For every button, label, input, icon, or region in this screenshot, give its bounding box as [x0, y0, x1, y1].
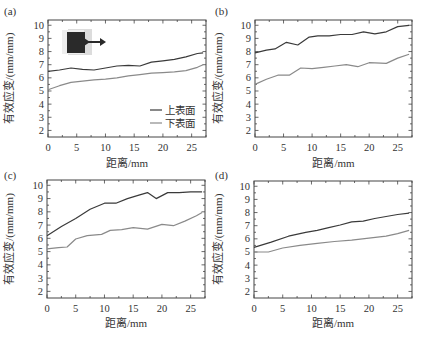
y-tick-label: 8 [38, 206, 43, 217]
x-axis-label: 距离/mm [105, 316, 148, 329]
series-lower-surface [254, 230, 409, 252]
x-tick-label: 0 [252, 142, 257, 153]
y-tick-label: 8 [246, 46, 251, 57]
y-tick-label: 4 [38, 259, 44, 270]
y-tick-label: 9 [246, 33, 251, 44]
panel-label: (a) [4, 5, 17, 18]
y-axis-label: 有效应变/(mm/mm) [2, 193, 16, 285]
y-tick-label: 9 [38, 193, 43, 204]
y-tick-label: 2 [246, 125, 251, 136]
x-tick-label: 15 [129, 142, 140, 153]
x-tick-label: 10 [307, 142, 318, 153]
y-tick-label: 10 [33, 180, 44, 191]
y-tick-label: 2 [39, 125, 44, 136]
x-tick-label: 25 [186, 142, 197, 153]
y-tick-label: 7 [245, 220, 250, 231]
panel-b: (b) 05101520252345678910距离/mm有效应变/(mm/mm… [211, 0, 423, 172]
y-tick-label: 7 [38, 220, 43, 231]
x-tick-label: 5 [280, 303, 285, 314]
y-axis-label: 有效应变/(mm/mm) [211, 32, 225, 124]
panel-a: (a) 05101520252345678910距离/mm有效应变/(mm/mm… [0, 0, 212, 172]
panel-label: (b) [215, 5, 228, 18]
x-tick-label: 20 [157, 303, 168, 314]
x-tick-label: 10 [100, 142, 111, 153]
y-tick-label: 9 [245, 194, 250, 205]
x-tick-label: 5 [74, 142, 79, 153]
x-tick-label: 5 [281, 142, 286, 153]
series-upper-surface [48, 53, 203, 71]
y-tick-label: 8 [39, 46, 44, 57]
y-tick-label: 3 [38, 273, 43, 284]
x-tick-label: 25 [185, 303, 196, 314]
legend-upper-label: 上表面 [165, 104, 195, 116]
y-tick-label: 5 [38, 246, 43, 257]
x-tick-label: 0 [44, 303, 49, 314]
axes-b: 05101520252345678910距离/mm有效应变/(mm/mm) [211, 20, 412, 169]
y-tick-label: 2 [245, 286, 250, 297]
x-axis-label: 距离/mm [312, 316, 355, 329]
x-tick-label: 0 [45, 142, 50, 153]
x-tick-label: 20 [158, 142, 169, 153]
inset-image [62, 29, 106, 55]
x-tick-label: 15 [128, 303, 139, 314]
y-tick-label: 6 [39, 72, 44, 83]
y-tick-label: 7 [39, 59, 44, 70]
y-tick-label: 5 [245, 246, 250, 257]
y-tick-label: 5 [39, 85, 44, 96]
y-tick-label: 6 [38, 233, 43, 244]
legend: 上表面 下表面 [150, 104, 195, 129]
y-tick-label: 8 [245, 207, 250, 218]
series-lower-surface [255, 54, 409, 84]
series-upper-surface [255, 25, 409, 53]
y-tick-label: 3 [246, 112, 251, 123]
y-tick-label: 6 [246, 72, 251, 83]
y-tick-label: 3 [245, 273, 250, 284]
y-tick-label: 10 [241, 20, 252, 31]
y-tick-label: 7 [246, 59, 251, 70]
y-axis-label: 有效应变/(mm/mm) [211, 193, 225, 285]
panel-label: (d) [215, 169, 228, 182]
axes-d: 05101520252345678910距离/mm有效应变/(mm/mm) [211, 181, 412, 329]
y-tick-label: 4 [246, 99, 252, 110]
panel-c: (c) 05101520252345678910距离/mm有效应变/(mm/mm… [0, 160, 212, 343]
x-tick-label: 15 [335, 142, 346, 153]
axes-c: 05101520252345678910距离/mm有效应变/(mm/mm) [2, 180, 205, 329]
x-tick-label: 15 [335, 303, 346, 314]
y-tick-label: 2 [38, 286, 43, 297]
x-tick-label: 20 [364, 142, 375, 153]
y-tick-label: 4 [39, 99, 45, 110]
panel-label: (c) [4, 169, 17, 182]
x-tick-label: 10 [99, 303, 110, 314]
legend-lower-label: 下表面 [165, 117, 195, 129]
y-tick-label: 10 [34, 20, 45, 31]
y-tick-label: 6 [245, 233, 250, 244]
y-tick-label: 3 [39, 112, 44, 123]
x-tick-label: 25 [392, 142, 403, 153]
x-tick-label: 25 [392, 303, 403, 314]
x-tick-label: 10 [306, 303, 317, 314]
series-lower-surface [47, 213, 202, 249]
y-tick-label: 4 [245, 260, 251, 271]
y-tick-label: 5 [246, 85, 251, 96]
panel-d: (d) 05101520252345678910距离/mm有效应变/(mm/mm… [211, 160, 423, 343]
x-tick-label: 0 [251, 303, 256, 314]
x-tick-label: 5 [73, 303, 78, 314]
plot-frame [255, 20, 412, 137]
x-tick-label: 20 [364, 303, 375, 314]
y-tick-label: 10 [240, 181, 251, 192]
y-axis-label: 有效应变/(mm/mm) [2, 32, 16, 124]
y-tick-label: 9 [39, 33, 44, 44]
plot-frame [47, 180, 205, 298]
